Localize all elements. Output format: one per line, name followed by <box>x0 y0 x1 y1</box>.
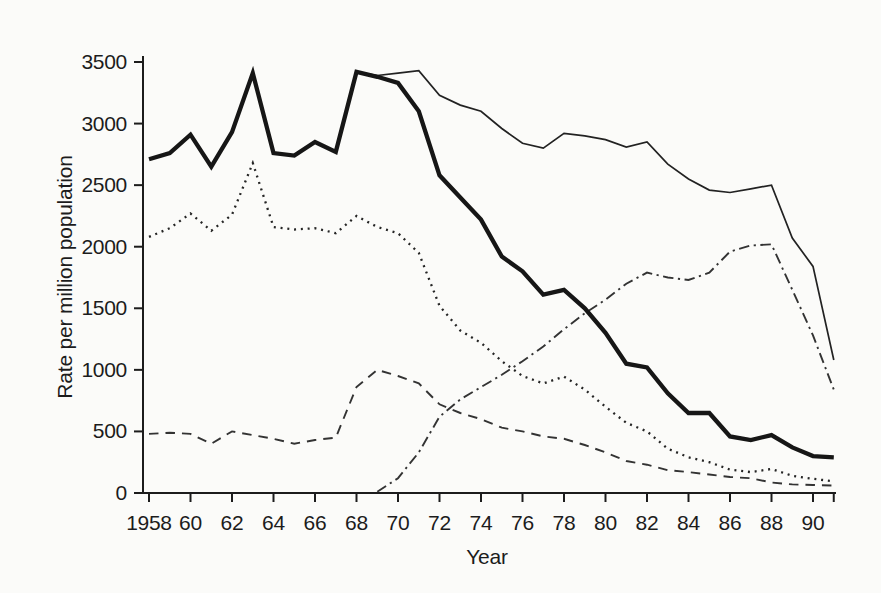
x-tick-label: 1958 <box>126 511 172 534</box>
y-tick-label: 0 <box>116 481 127 504</box>
x-tick-label: 82 <box>636 511 659 534</box>
x-tick-label: 90 <box>802 511 825 534</box>
x-tick-label: 78 <box>553 511 576 534</box>
x-tick-label: 72 <box>428 511 451 534</box>
series-thin-solid-line <box>357 71 834 360</box>
x-tick-label: 70 <box>387 511 410 534</box>
chart: 0500100015002000250030003500195860626466… <box>0 0 881 593</box>
x-tick-label: 74 <box>470 511 493 534</box>
y-tick-label: 1500 <box>81 296 127 319</box>
x-tick-label: 80 <box>594 511 617 534</box>
x-tick-label: 84 <box>677 511 700 534</box>
figure: 0500100015002000250030003500195860626466… <box>0 0 881 593</box>
x-tick-label: 86 <box>719 511 742 534</box>
y-axis-title: Rate per million population <box>52 62 78 493</box>
y-tick-label: 2000 <box>81 235 127 258</box>
y-tick-label: 3000 <box>81 112 127 135</box>
x-tick-label: 68 <box>345 511 368 534</box>
y-tick-label: 2500 <box>81 173 127 196</box>
series-thick-solid-line <box>149 72 834 457</box>
x-tick-label: 62 <box>221 511 244 534</box>
x-axis-title: Year <box>387 544 587 570</box>
y-tick-label: 3500 <box>81 50 127 73</box>
series-dotted-line <box>149 163 834 481</box>
series-dashed-line <box>149 370 834 486</box>
x-tick-label: 88 <box>760 511 783 534</box>
x-tick-label: 64 <box>262 511 285 534</box>
y-tick-label: 500 <box>93 419 127 442</box>
series-dash-dot-line <box>377 244 834 491</box>
x-tick-label: 60 <box>179 511 202 534</box>
x-tick-label: 66 <box>304 511 327 534</box>
x-tick-label: 76 <box>511 511 534 534</box>
axes: 0500100015002000250030003500195860626466… <box>81 50 836 534</box>
y-tick-label: 1000 <box>81 358 127 381</box>
